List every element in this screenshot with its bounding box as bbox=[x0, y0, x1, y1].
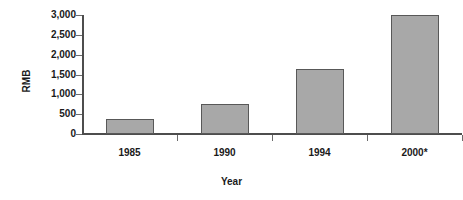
y-axis-tick-labels: 05001,0001,5002,0002,5003,000 bbox=[34, 0, 76, 200]
y-axis-tick-label: 0 bbox=[34, 129, 76, 139]
y-axis-tick-mark bbox=[76, 134, 82, 135]
y-axis-tick-mark bbox=[76, 35, 82, 36]
y-axis-tick-label: 2,500 bbox=[34, 30, 76, 40]
y-axis-tick-mark bbox=[76, 55, 82, 56]
y-axis-tick-mark bbox=[76, 75, 82, 76]
x-axis-tick-mark bbox=[367, 135, 368, 141]
y-axis-tick-label: 500 bbox=[34, 109, 76, 119]
y-axis-tick-label: 1,500 bbox=[34, 70, 76, 80]
x-axis-tick-label: 1994 bbox=[272, 147, 367, 159]
x-axis-tick-label: 1985 bbox=[82, 147, 177, 159]
y-axis-tick-label: 1,000 bbox=[34, 89, 76, 99]
bar-chart: RMB 05001,0001,5002,0002,5003,000 Year 1… bbox=[0, 0, 463, 200]
y-axis-tick-mark bbox=[76, 114, 82, 115]
x-axis-tick-label: 1990 bbox=[177, 147, 272, 159]
x-axis-title: Year bbox=[0, 176, 463, 187]
x-axis-tick-mark bbox=[272, 135, 273, 141]
x-axis-tick-mark bbox=[177, 135, 178, 141]
x-axis-tick-label: 2000* bbox=[367, 147, 462, 159]
y-axis-tick-mark bbox=[76, 15, 82, 16]
bar bbox=[106, 119, 154, 134]
bar bbox=[391, 15, 439, 134]
bar bbox=[201, 104, 249, 134]
y-axis-tick-mark bbox=[76, 94, 82, 95]
y-axis-tick-label: 3,000 bbox=[34, 10, 76, 20]
y-axis-tick-label: 2,000 bbox=[34, 50, 76, 60]
bar bbox=[296, 69, 344, 134]
